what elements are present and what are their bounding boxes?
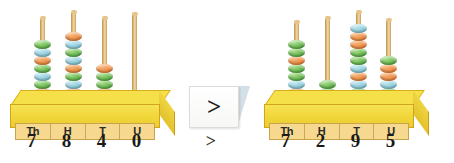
rod-cap-icon — [325, 16, 331, 20]
bead — [34, 80, 51, 89]
rod-cap-icon — [356, 10, 362, 14]
comparison-card[interactable]: > — [189, 84, 253, 130]
abacus-left-digits: 7 8 4 0 — [14, 130, 154, 152]
bead — [288, 64, 305, 73]
bead — [350, 80, 367, 89]
bead — [34, 72, 51, 81]
bead — [350, 64, 367, 73]
digit-th: 7 — [268, 130, 303, 152]
bead — [65, 64, 82, 73]
bead — [380, 56, 397, 65]
rod-cap-icon — [386, 18, 392, 22]
bead — [34, 56, 51, 65]
bead — [380, 64, 397, 73]
abacus-left: Th H T U 7 8 4 0 — [8, 0, 178, 163]
bead — [288, 72, 305, 81]
bead — [65, 72, 82, 81]
abacus-right-digits: 7 2 9 5 — [268, 130, 408, 152]
digit-h: 8 — [49, 130, 84, 152]
bead — [34, 48, 51, 57]
bead — [65, 80, 82, 89]
base-front-face: Th H T U — [10, 104, 160, 128]
abacus-left-base: Th H T U — [10, 90, 160, 128]
bead — [350, 24, 367, 33]
bead — [350, 40, 367, 49]
greater-than-icon: > — [207, 94, 221, 119]
bead — [288, 48, 305, 57]
abacus-right-rods — [262, 0, 432, 98]
base-front-face: Th H T U — [264, 104, 414, 128]
bead — [288, 40, 305, 49]
bead — [380, 80, 397, 89]
bead — [96, 64, 113, 73]
written-comparison-symbol: > — [196, 131, 226, 152]
bead — [319, 80, 336, 89]
bead — [380, 72, 397, 81]
bead — [34, 64, 51, 73]
rod-u — [132, 14, 137, 98]
rod-cap-icon — [40, 16, 46, 20]
bead — [34, 40, 51, 49]
abacus-comparison-scene: Th H T U 7 8 4 0 > > — [0, 0, 454, 163]
rod-cap-icon — [294, 20, 300, 24]
bead — [350, 72, 367, 81]
bead — [288, 56, 305, 65]
rod-cap-icon — [71, 10, 77, 14]
digit-u: 5 — [373, 130, 408, 152]
bead — [288, 80, 305, 89]
rod-cap-icon — [132, 12, 138, 16]
bead — [96, 80, 113, 89]
digit-h: 2 — [303, 130, 338, 152]
bead — [350, 48, 367, 57]
digit-t: 9 — [338, 130, 373, 152]
digit-t: 4 — [84, 130, 119, 152]
abacus-left-rods — [8, 0, 178, 98]
bead — [65, 40, 82, 49]
card-fold-edge — [237, 86, 251, 128]
digit-u: 0 — [119, 130, 154, 152]
bead — [350, 32, 367, 41]
bead — [65, 32, 82, 41]
bead — [350, 56, 367, 65]
card-front-face: > — [189, 86, 239, 128]
abacus-right: Th H T U 7 2 9 5 — [262, 0, 432, 163]
bead — [96, 72, 113, 81]
rod-cap-icon — [102, 16, 108, 20]
bead — [65, 48, 82, 57]
bead — [65, 56, 82, 65]
abacus-right-base: Th H T U — [264, 90, 414, 128]
digit-th: 7 — [14, 130, 49, 152]
